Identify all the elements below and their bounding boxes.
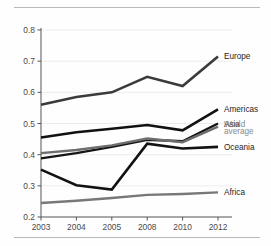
- x-tick-label: 2004: [67, 222, 86, 232]
- y-tick-label: 0.4: [23, 150, 35, 160]
- series-label-world-average-line2: average: [224, 127, 254, 136]
- y-axis-tick-labels: 0.20.30.40.50.60.70.8: [23, 25, 35, 222]
- y-tick-label: 0.3: [23, 181, 35, 191]
- chart-figure: 0.20.30.40.50.60.70.8 200320042005200820…: [0, 0, 271, 246]
- line-chart: 0.20.30.40.50.60.70.8 200320042005200820…: [0, 0, 271, 246]
- series-label-africa: Africa: [224, 188, 245, 197]
- gridlines: [41, 30, 232, 186]
- x-tick-label: 2005: [102, 222, 121, 232]
- y-tick-label: 0.2: [23, 212, 35, 222]
- x-tick-label: 2008: [138, 222, 157, 232]
- series-line-europe: [41, 56, 218, 104]
- series-end-labels: EuropeAmericasAsiaWorldaverageOceaniaAfr…: [224, 52, 258, 197]
- axes: [38, 28, 233, 221]
- x-tick-label: 2003: [32, 222, 51, 232]
- y-tick-label: 0.6: [23, 87, 35, 97]
- x-tick-label: 2012: [209, 222, 228, 232]
- series-label-americas: Americas: [224, 105, 258, 114]
- data-series: [41, 56, 218, 202]
- series-label-europe: Europe: [224, 52, 251, 61]
- series-line-africa: [41, 192, 218, 203]
- y-tick-label: 0.7: [23, 56, 35, 66]
- y-tick-label: 0.8: [23, 25, 35, 35]
- series-label-oceania: Oceania: [224, 143, 255, 152]
- x-axis-tick-labels: 200320042005200820102012: [32, 222, 228, 232]
- x-tick-label: 2010: [173, 222, 192, 232]
- y-tick-label: 0.5: [23, 119, 35, 129]
